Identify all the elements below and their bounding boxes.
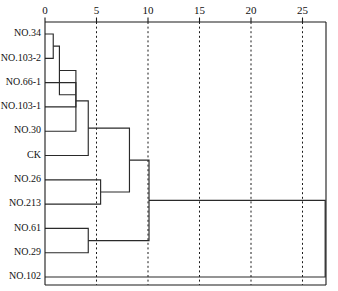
leaf-label-no-61: NO.61 (14, 222, 41, 233)
leaf-label-no-30: NO.30 (14, 124, 41, 135)
leaf-label-no-103-1: NO.103-1 (1, 100, 41, 111)
x-tick-label-0: 0 (42, 4, 48, 16)
link-m10 (45, 200, 325, 277)
leaf-label-no-26: NO.26 (14, 173, 41, 184)
dendrogram-canvas: 0510152025 NO.34NO.103-2NO.66-1NO.103-1N… (0, 0, 338, 291)
x-axis (45, 18, 326, 23)
dendrogram-figure: 0510152025 NO.34NO.103-2NO.66-1NO.103-1N… (0, 0, 338, 291)
x-tick-label-15: 15 (194, 4, 206, 16)
leaf-label-ck: CK (27, 149, 42, 160)
dendrogram-links (45, 34, 325, 277)
leaf-label-no-34: NO.34 (14, 27, 41, 38)
link-m6 (45, 180, 101, 204)
link-m1 (45, 34, 53, 58)
leaf-label-no-29: NO.29 (14, 246, 41, 257)
link-m7 (45, 228, 88, 252)
leaf-labels: NO.34NO.103-2NO.66-1NO.103-1NO.30CKNO.26… (1, 27, 42, 281)
x-tick-label-5: 5 (94, 4, 100, 16)
leaf-label-no-102: NO.102 (9, 270, 41, 281)
grid-lines (97, 22, 303, 285)
x-axis-tick-labels: 0510152025 (42, 4, 308, 16)
link-m8 (88, 128, 129, 192)
link-m9 (88, 160, 149, 240)
link-m4 (45, 70, 76, 131)
x-tick-label-25: 25 (297, 4, 309, 16)
leaf-label-no-66-1: NO.66-1 (6, 76, 41, 87)
plot-border (45, 22, 326, 285)
link-m5 (45, 101, 88, 156)
leaf-label-no-103-2: NO.103-2 (1, 52, 41, 63)
leaf-label-no-213: NO.213 (9, 197, 41, 208)
x-tick-label-10: 10 (143, 4, 155, 16)
x-tick-label-20: 20 (246, 4, 258, 16)
